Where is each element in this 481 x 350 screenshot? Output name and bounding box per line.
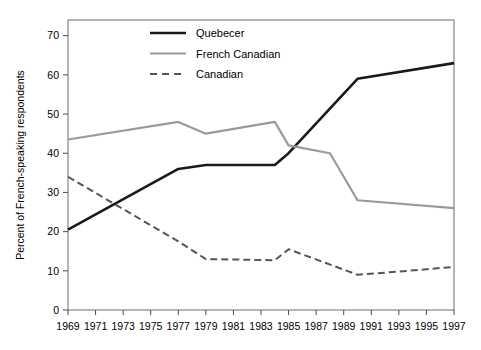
x-tick-label: 1989	[332, 320, 356, 332]
x-tick-label: 1975	[139, 320, 163, 332]
x-tick-label: 1977	[167, 320, 191, 332]
y-tick-label: 0	[53, 304, 59, 316]
y-tick-label: 10	[47, 265, 59, 277]
legend-label-canadian: Canadian	[196, 68, 243, 80]
x-tick-label: 1969	[56, 320, 80, 332]
y-tick-label: 60	[47, 69, 59, 81]
y-tick-label: 30	[47, 186, 59, 198]
legend-label-french-canadian: French Canadian	[196, 48, 280, 60]
x-tick-label: 1985	[277, 320, 301, 332]
line-chart: 010203040506070 196919711973197519771979…	[0, 0, 481, 350]
y-tick-label: 40	[47, 147, 59, 159]
x-tick-label: 1997	[442, 320, 466, 332]
y-tick-label: 20	[47, 225, 59, 237]
y-tick-label: 70	[47, 29, 59, 41]
x-tick-label: 1979	[194, 320, 218, 332]
y-axis-title: Percent of French-speaking respondents	[14, 70, 26, 260]
x-tick-label: 1973	[111, 320, 135, 332]
x-tick-label: 1993	[387, 320, 411, 332]
x-tick-label: 1983	[249, 320, 273, 332]
y-axis-title-text: Percent of French-speaking respondents	[14, 70, 26, 260]
x-tick-label: 1987	[304, 320, 328, 332]
x-tick-label: 1991	[360, 320, 384, 332]
legend-label-quebecer: Quebecer	[196, 27, 245, 39]
y-tick-label: 50	[47, 108, 59, 120]
chart-figure: 010203040506070 196919711973197519771979…	[0, 0, 481, 350]
x-tick-label: 1971	[84, 320, 108, 332]
x-tick-label: 1995	[415, 320, 439, 332]
x-tick-label: 1981	[222, 320, 246, 332]
